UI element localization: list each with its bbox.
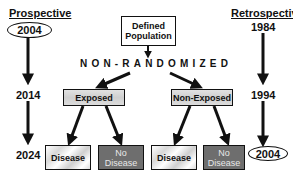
non-exposed-label: Non-Exposed — [173, 93, 231, 103]
non-randomized-label: NON-RANDOMIZED — [80, 58, 232, 70]
non-exposed-no-disease-line2: Disease — [208, 158, 241, 168]
exposed-no-disease-line1: No — [115, 148, 127, 158]
exposed-disease-box: Disease — [45, 145, 91, 170]
non-exposed-disease-label: Disease — [157, 153, 191, 163]
retrospective-start-year: 1984 — [251, 21, 275, 33]
exposed-box: Exposed — [63, 89, 125, 106]
prospective-start-year-oval: 2004 — [7, 22, 52, 38]
prospective-header: Prospective — [9, 7, 71, 19]
retrospective-end-year: 2004 — [256, 148, 280, 160]
non-exposed-box: Non-Exposed — [171, 89, 233, 106]
exposed-to-no-disease-arrow — [106, 106, 120, 141]
split-arrow-non-exposed — [170, 73, 198, 86]
retrospective-mid-year: 1994 — [251, 89, 275, 101]
population-line1: Defined — [132, 21, 165, 31]
retrospective-header: Retrospective — [231, 7, 293, 19]
prospective-start-year: 2004 — [17, 24, 41, 36]
prospective-mid-year: 2014 — [16, 89, 40, 101]
exposed-to-disease-arrow — [70, 106, 83, 141]
exposed-label: Exposed — [75, 93, 113, 103]
defined-population-box: Defined Population — [121, 16, 176, 46]
exposed-disease-label: Disease — [51, 153, 85, 163]
non-exposed-to-disease-arrow — [176, 106, 190, 141]
prospective-end-year: 2024 — [16, 149, 40, 161]
exposed-no-disease-box: No Disease — [98, 145, 144, 170]
non-exposed-disease-box: Disease — [151, 145, 197, 170]
non-exposed-to-no-disease-arrow — [214, 106, 227, 141]
non-exposed-no-disease-box: No Disease — [203, 145, 245, 170]
retrospective-end-year-oval: 2004 — [248, 146, 288, 161]
exposed-no-disease-line2: Disease — [105, 158, 138, 168]
non-exposed-no-disease-line1: No — [218, 148, 230, 158]
population-line2: Population — [125, 31, 172, 41]
split-arrow-exposed — [100, 73, 130, 86]
